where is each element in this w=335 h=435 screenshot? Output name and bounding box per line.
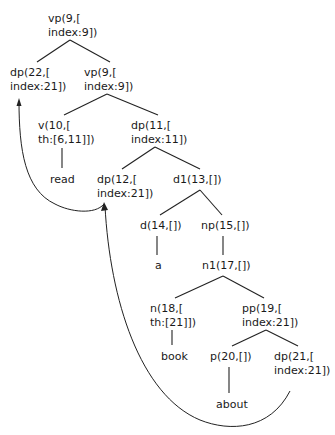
tree-node: vp(9,[index:9]) (84, 66, 133, 94)
tree-node: v(10,[th:[6,11]]) (38, 119, 95, 147)
tree-edge-n2-n4 (107, 94, 158, 115)
tree-node: book (161, 350, 188, 364)
node-label-line1: read (50, 173, 75, 187)
node-label-line1: n1(17,[]) (202, 259, 251, 273)
node-label-line1: p(20,[]) (210, 350, 252, 364)
tree-edge-n7-n9 (200, 190, 222, 215)
tree-edge-n7-n8 (160, 190, 200, 215)
tree-node: dp(22,[index:21]) (10, 66, 66, 94)
tree-edge-n13-n16 (266, 330, 298, 346)
tree-node: d(14,[]) (140, 219, 182, 233)
node-label-line1: vp(9,[ (48, 12, 97, 26)
node-label-line1: dp(11,[ (131, 119, 187, 133)
node-label-line2: index:21]) (97, 187, 153, 201)
node-label-line1: pp(19,[ (242, 302, 298, 316)
tree-edge-n4-n7 (155, 147, 200, 169)
node-label-line2: index:11]) (131, 133, 187, 147)
node-label-line1: v(10,[ (38, 119, 95, 133)
tree-node: dp(12,[index:21]) (97, 173, 153, 201)
tree-node: dp(21,[index:21]) (274, 350, 330, 378)
node-label-line2: th:[21]]) (150, 316, 196, 330)
tree-node: pp(19,[index:21]) (242, 302, 298, 330)
syntax-tree-diagram: vp(9,[index:9])dp(22,[index:21])vp(9,[in… (0, 0, 335, 435)
arrowhead-icon (17, 98, 22, 106)
node-label-line2: th:[6,11]]) (38, 133, 95, 147)
tree-edge-n11-n12 (175, 276, 223, 298)
tree-node: vp(9,[index:9]) (48, 12, 97, 40)
node-label-line1: a (155, 259, 162, 273)
tree-node: dp(11,[index:11]) (131, 119, 187, 147)
tree-edge-n0-n2 (70, 40, 110, 62)
tree-node: about (216, 398, 248, 412)
node-label-line2: index:9]) (84, 80, 133, 94)
tree-edge-n0-n1 (37, 40, 70, 62)
node-label-line2: index:21]) (274, 364, 330, 378)
tree-node: read (50, 173, 75, 187)
tree-node: d1(13,[]) (173, 173, 222, 187)
tree-edge-n11-n13 (223, 276, 264, 298)
tree-node: np(15,[]) (201, 219, 250, 233)
node-label-line2: index:9]) (48, 26, 97, 40)
node-label-line2: index:21]) (10, 80, 66, 94)
tree-node: n(18,[th:[21]]) (150, 302, 196, 330)
node-label-line1: d(14,[]) (140, 219, 182, 233)
tree-edge-n2-n3 (64, 94, 107, 115)
node-label-line1: n(18,[ (150, 302, 196, 316)
tree-node: a (155, 259, 162, 273)
node-label-line1: np(15,[]) (201, 219, 250, 233)
tree-edge-n13-n15 (232, 330, 266, 346)
tree-node: n1(17,[]) (202, 259, 251, 273)
node-label-line1: dp(21,[ (274, 350, 330, 364)
node-label-line1: book (161, 350, 188, 364)
tree-edge-n4-n6 (122, 147, 155, 169)
node-label-line1: dp(12,[ (97, 173, 153, 187)
node-label-line1: vp(9,[ (84, 66, 133, 80)
node-label-line1: dp(22,[ (10, 66, 66, 80)
node-label-line1: d1(13,[]) (173, 173, 222, 187)
tree-node: p(20,[]) (210, 350, 252, 364)
node-label-line2: index:21]) (242, 316, 298, 330)
node-label-line1: about (216, 398, 248, 412)
